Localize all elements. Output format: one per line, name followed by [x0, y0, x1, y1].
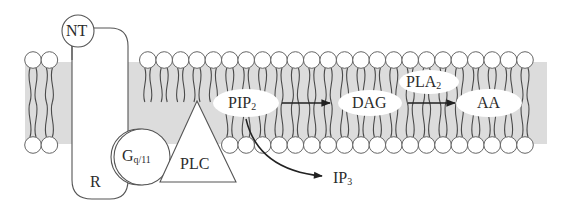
g-protein-label: Gq/11 [122, 148, 151, 165]
dag-label: DAG [352, 95, 387, 111]
g-protein-base: G [122, 147, 134, 164]
g-protein-sub: q/11 [134, 154, 151, 165]
pla2-sub: 2 [436, 80, 441, 91]
plc-label: PLC [180, 156, 209, 172]
pip2-label: PIP2 [228, 95, 256, 112]
pla2-label: PLA2 [406, 74, 441, 91]
pip2-sub: 2 [251, 101, 256, 112]
ip3-base: IP [333, 169, 347, 186]
pip2-base: PIP [228, 94, 251, 111]
nt-label: NT [66, 23, 87, 39]
ip3-sub: 3 [347, 176, 352, 187]
aa-label: AA [477, 95, 500, 111]
receptor-label: R [90, 174, 101, 190]
ip3-label: IP3 [333, 170, 352, 187]
pla2-base: PLA [406, 73, 436, 90]
